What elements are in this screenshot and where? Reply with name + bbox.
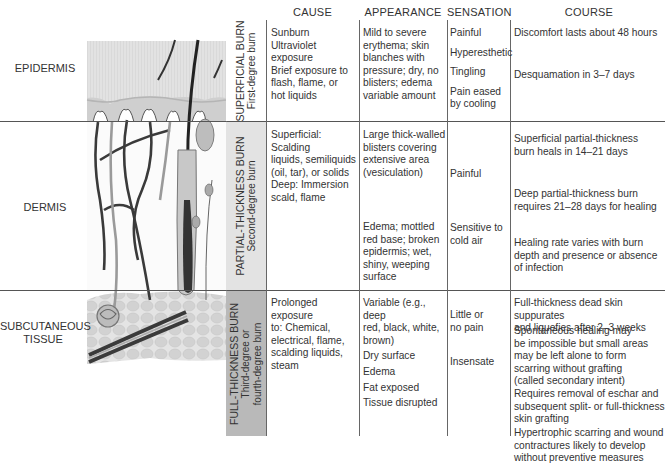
full-course-spontaneous-healing: Spontaneous healing may be impossible bu… [514, 325, 668, 388]
text-line: Pain eased [450, 86, 510, 99]
layer-label-epidermis: EPIDERMIS [10, 62, 80, 75]
text-line: Tissue disrupted [363, 397, 447, 410]
text-line: Prolonged exposure [271, 297, 359, 322]
partial-sensation-cold: Sensitive to cold air [450, 222, 510, 247]
text-line: red base; broken [363, 234, 447, 247]
burn-subtitle-partial: Second-degree burn [246, 136, 258, 275]
layer-label-subcutaneous-line1: SUBCUTANEOUS [0, 320, 86, 333]
text-line: without preventive measures [514, 452, 668, 464]
text-line: Brief exposure to [271, 65, 359, 78]
text-line: Requires removal of eschar and [514, 388, 668, 401]
text-line: flash, flame, or [271, 77, 359, 90]
partial-appearance-blisters: Large thick-walled blisters covering ext… [363, 129, 447, 179]
text-line: surface [363, 271, 447, 284]
text-line: Discomfort lasts about 48 hours [514, 27, 666, 40]
text-line: brown) [363, 335, 447, 348]
burn-subtitle-full-line2: fourth-degree burn [252, 303, 264, 425]
text-line: Spontaneous healing may [514, 325, 668, 338]
text-line: blisters; edema [363, 77, 447, 90]
text-line: blisters covering [363, 142, 447, 155]
text-line: scarring without grafting [514, 363, 668, 376]
text-line: Fat exposed [363, 382, 447, 395]
text-line: variable amount [363, 90, 447, 103]
text-line: Superficial partial-thickness [514, 133, 666, 146]
full-sensation-little-pain: Little or no pain [450, 309, 510, 334]
text-line: (called secondary intent) [514, 375, 668, 388]
text-line: epidermis; wet, [363, 246, 447, 259]
layer-label-subcutaneous: SUBCUTANEOUS TISSUE [0, 320, 86, 346]
text-line: Large thick-walled [363, 129, 447, 142]
partial-course-healing-rate: Healing rate varies with burn depth and … [514, 237, 666, 275]
text-line: of infection [514, 262, 666, 275]
text-line: electrical, flame, [271, 335, 359, 348]
full-sensation-insensate: Insensate [450, 356, 510, 369]
text-line: to: Chemical, [271, 322, 359, 335]
text-line: hot liquids [271, 90, 359, 103]
text-line: depth and presence or absence [514, 250, 666, 263]
text-line: steam [271, 360, 359, 373]
header-sensation: SENSATION [447, 6, 510, 18]
text-line: (oil, tar), or solids [271, 167, 359, 180]
superficial-sensation: Painful Hyperesthetic Tingling Pain ease… [450, 27, 510, 111]
text-line: Edema [363, 366, 447, 379]
band-superficial-burn: SUPERFICIAL BURN First-degree burn [226, 20, 266, 121]
column-line-appearance [359, 20, 360, 436]
superficial-cause: Sunburn Ultraviolet exposure Brief expos… [271, 27, 359, 103]
text-line: Healing rate varies with burn [514, 237, 666, 250]
text-line: Deep: Immersion [271, 179, 359, 192]
partial-course-superficial: Superficial partial-thickness burn heals… [514, 133, 666, 158]
text-line: erythema; skin [363, 40, 447, 53]
text-line: requires 21–28 days for healing [514, 201, 666, 214]
band-partial-thickness-burn: PARTIAL-THICKNESS BURN Second-degree bur… [226, 122, 266, 290]
text-line: scald, flame [271, 192, 359, 205]
column-line-sensation [447, 20, 448, 436]
burn-subtitle-superficial: First-degree burn [246, 20, 258, 121]
text-line: Superficial: Scalding [271, 129, 359, 154]
burn-title-superficial: SUPERFICIAL BURN [234, 20, 246, 121]
full-course-eschar-removal: Requires removal of eschar and subsequen… [514, 388, 668, 426]
text-line: Painful [450, 27, 510, 40]
text-line: Tingling [450, 66, 510, 79]
text-line: Hypertrophic scarring and wound [514, 427, 668, 440]
text-line: Mild to severe [363, 27, 447, 40]
divider-superficial-partial [0, 121, 665, 122]
text-line: Variable (e.g., deep [363, 297, 447, 322]
text-line: by cooling [450, 98, 510, 111]
text-line: Sensitive to [450, 222, 510, 235]
divider-partial-full [0, 290, 665, 291]
text-line: scalding liquids, [271, 347, 359, 360]
text-line: shiny, weeping [363, 259, 447, 272]
band-full-thickness-burn: FULL-THICKNESS BURN Third-degree or four… [226, 291, 266, 436]
partial-course-deep: Deep partial-thickness burn requires 21–… [514, 188, 666, 213]
full-course-hypertrophic-scarring: Hypertrophic scarring and wound contract… [514, 427, 668, 464]
text-line: subsequent split- or full-thickness [514, 401, 668, 414]
text-line: (vesiculation) [363, 167, 447, 180]
text-line: Sunburn [271, 27, 359, 40]
text-line: Deep partial-thickness burn [514, 188, 666, 201]
text-line: Dry surface [363, 350, 447, 363]
text-line: liquids, semiliquids [271, 154, 359, 167]
partial-cause: Superficial: Scalding liquids, semiliqui… [271, 129, 359, 205]
column-line-cause [266, 20, 267, 436]
text-line: blanches with [363, 52, 447, 65]
burn-title-full: FULL-THICKNESS BURN [228, 303, 240, 425]
text-line: may be left alone to form [514, 350, 668, 363]
column-line-course [510, 20, 511, 436]
layer-label-subcutaneous-line2: TISSUE [0, 333, 86, 346]
text-line: extensive area [363, 154, 447, 167]
superficial-course: Discomfort lasts about 48 hours Desquama… [514, 27, 666, 81]
superficial-appearance: Mild to severe erythema; skin blanches w… [363, 27, 447, 103]
text-line: cold air [450, 235, 510, 248]
partial-appearance-edema: Edema; mottled red base; broken epidermi… [363, 221, 447, 284]
full-appearance: Variable (e.g., deep red, black, white, … [363, 297, 447, 410]
text-line: skin grafting [514, 413, 668, 426]
burn-title-partial: PARTIAL-THICKNESS BURN [234, 136, 246, 275]
text-line: Full-thickness dead skin suppurates [514, 297, 668, 322]
text-line: be impossible but small areas [514, 338, 668, 351]
full-cause: Prolonged exposure to: Chemical, electri… [271, 297, 359, 373]
text-line: Ultraviolet exposure [271, 40, 359, 65]
text-line: pressure; dry, no [363, 65, 447, 78]
partial-sensation-painful: Painful [450, 168, 510, 181]
header-cause: CAUSE [266, 6, 359, 18]
text-line: Little or [450, 309, 510, 322]
